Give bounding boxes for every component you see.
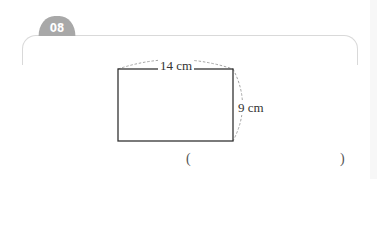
rectangle-shape [118, 69, 233, 141]
height-label: 9 cm [237, 101, 265, 115]
width-label: 14 cm [158, 59, 194, 73]
answer-close-paren: ) [340, 151, 345, 167]
answer-open-paren: ( [186, 151, 191, 167]
